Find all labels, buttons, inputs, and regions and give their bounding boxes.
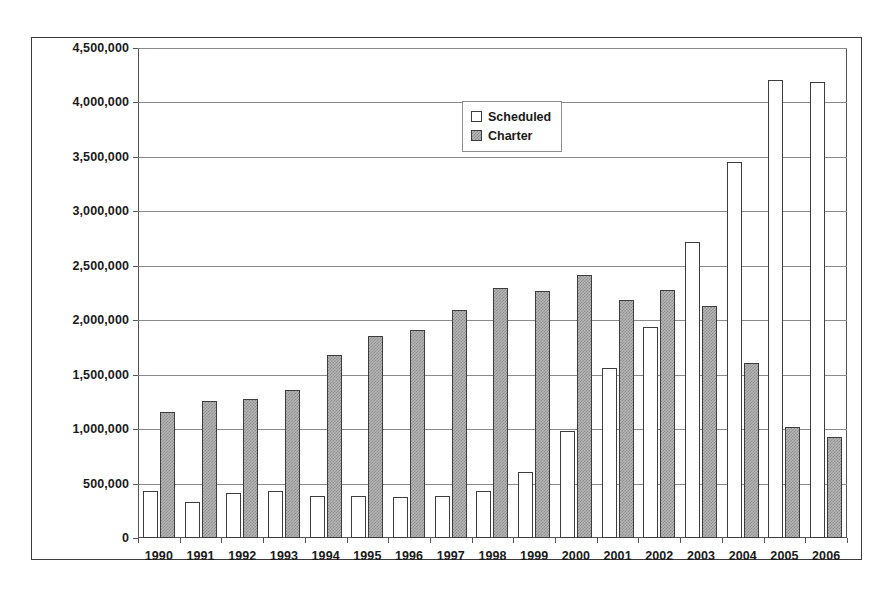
x-tick-mark [805, 538, 806, 543]
y-tick-label: 2,000,000 [72, 313, 129, 327]
bar-charter-1997 [452, 310, 467, 538]
x-tick-mark [388, 538, 389, 543]
x-tick-label-2002: 2002 [645, 549, 673, 563]
legend-swatch-scheduled-icon [471, 111, 482, 122]
x-tick-mark [513, 538, 514, 543]
legend-label-scheduled: Scheduled [488, 110, 551, 124]
x-tick-mark [180, 538, 181, 543]
x-tick-mark [221, 538, 222, 543]
bar-charter-1998 [493, 288, 508, 538]
x-tick-label-2001: 2001 [604, 549, 632, 563]
bar-charter-1996 [410, 330, 425, 538]
x-tick-mark [764, 538, 765, 543]
x-tick-mark [347, 538, 348, 543]
bar-scheduled-2002 [643, 327, 658, 538]
y-tick-label: 3,000,000 [72, 204, 129, 218]
bar-scheduled-1992 [226, 493, 241, 538]
bar-group [221, 48, 263, 538]
bar-group [764, 48, 806, 538]
x-tick-mark [305, 538, 306, 543]
bar-charter-2001 [619, 300, 634, 538]
bar-charter-2000 [577, 275, 592, 538]
bar-group [305, 48, 347, 538]
y-tick-label: 4,500,000 [72, 41, 129, 55]
bar-scheduled-1993 [268, 491, 283, 538]
x-tick-mark [847, 538, 848, 543]
y-tick-label: 2,500,000 [72, 259, 129, 273]
bar-scheduled-1991 [185, 502, 200, 538]
bar-group [347, 48, 389, 538]
bar-scheduled-2005 [768, 80, 783, 538]
x-tick-label-2000: 2000 [562, 549, 590, 563]
x-tick-label-1997: 1997 [437, 549, 465, 563]
bar-scheduled-1996 [393, 497, 408, 538]
bar-scheduled-1995 [351, 496, 366, 538]
y-tick-label: 3,500,000 [72, 150, 129, 164]
bar-charter-1999 [535, 291, 550, 538]
y-tick-label: 4,000,000 [72, 95, 129, 109]
bar-charter-1994 [327, 355, 342, 538]
legend-item-scheduled: Scheduled [471, 107, 551, 126]
bar-charter-2002 [660, 290, 675, 538]
x-tick-label-2006: 2006 [812, 549, 840, 563]
bar-group [680, 48, 722, 538]
bar-scheduled-1999 [518, 472, 533, 538]
bar-group [180, 48, 222, 538]
x-tick-label-1990: 1990 [145, 549, 173, 563]
x-tick-mark [263, 538, 264, 543]
bar-charter-2006 [827, 437, 842, 538]
bar-charter-2003 [702, 306, 717, 538]
bar-charter-1991 [202, 401, 217, 538]
x-tick-label-1999: 1999 [520, 549, 548, 563]
y-tick-label: 0 [122, 531, 129, 545]
x-tick-label-1998: 1998 [478, 549, 506, 563]
x-tick-label-1993: 1993 [270, 549, 298, 563]
x-tick-mark [138, 538, 139, 543]
bar-charter-1990 [160, 412, 175, 538]
x-tick-label-1996: 1996 [395, 549, 423, 563]
bar-scheduled-2006 [810, 82, 825, 538]
x-tick-label-1991: 1991 [186, 549, 214, 563]
bar-group [638, 48, 680, 538]
y-tick-label: 1,000,000 [72, 422, 129, 436]
bar-scheduled-2004 [727, 162, 742, 538]
bar-scheduled-1997 [435, 496, 450, 538]
bar-group [805, 48, 847, 538]
x-tick-mark [597, 538, 598, 543]
x-tick-label-2004: 2004 [729, 549, 757, 563]
bar-scheduled-2003 [685, 242, 700, 538]
bar-group [138, 48, 180, 538]
bar-group [597, 48, 639, 538]
x-tick-label-1994: 1994 [312, 549, 340, 563]
x-tick-label-1995: 1995 [353, 549, 381, 563]
x-tick-mark [555, 538, 556, 543]
legend-label-charter: Charter [488, 129, 532, 143]
x-tick-mark [680, 538, 681, 543]
bar-scheduled-2001 [602, 368, 617, 538]
bar-scheduled-2000 [560, 431, 575, 538]
x-tick-label-2005: 2005 [770, 549, 798, 563]
legend-swatch-charter-icon [471, 130, 482, 141]
legend-item-charter: Charter [471, 126, 551, 145]
bar-charter-2005 [785, 427, 800, 538]
bar-charter-1993 [285, 390, 300, 538]
bar-chart: 0500,0001,000,0001,500,0002,000,0002,500… [0, 0, 896, 590]
bar-scheduled-1994 [310, 496, 325, 538]
bar-group [388, 48, 430, 538]
bar-scheduled-1998 [476, 491, 491, 538]
x-tick-mark [430, 538, 431, 543]
bar-charter-1995 [368, 336, 383, 538]
bar-charter-2004 [744, 363, 759, 538]
bar-charter-1992 [243, 399, 258, 538]
y-tick-label: 500,000 [83, 477, 129, 491]
chart-frame: 0500,0001,000,0001,500,0002,000,0002,500… [31, 37, 862, 560]
x-tick-mark [722, 538, 723, 543]
bar-scheduled-1990 [143, 491, 158, 538]
bar-group [263, 48, 305, 538]
x-tick-label-1992: 1992 [228, 549, 256, 563]
chart-legend: Scheduled Charter [462, 101, 562, 152]
x-tick-mark [638, 538, 639, 543]
x-tick-label-2003: 2003 [687, 549, 715, 563]
y-tick-label: 1,500,000 [72, 368, 129, 382]
bar-group [722, 48, 764, 538]
